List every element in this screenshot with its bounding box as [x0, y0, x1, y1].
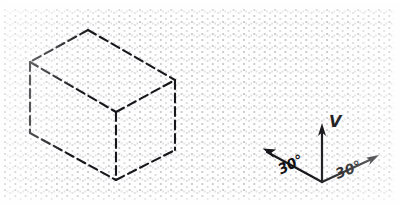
box-edge-top-rear-left — [30, 30, 88, 62]
box-edge-top-rear-right — [88, 30, 175, 80]
axis-label-vertical: V — [329, 112, 341, 131]
box-edge-bottom-right — [116, 150, 175, 180]
box-edge-bottom-left — [30, 133, 116, 180]
figure-canvas: V 30° 30° — [0, 0, 400, 205]
box-edge-top-front-left — [30, 62, 116, 112]
box-edge-top-front-right — [116, 80, 175, 112]
isometric-box — [30, 30, 175, 180]
